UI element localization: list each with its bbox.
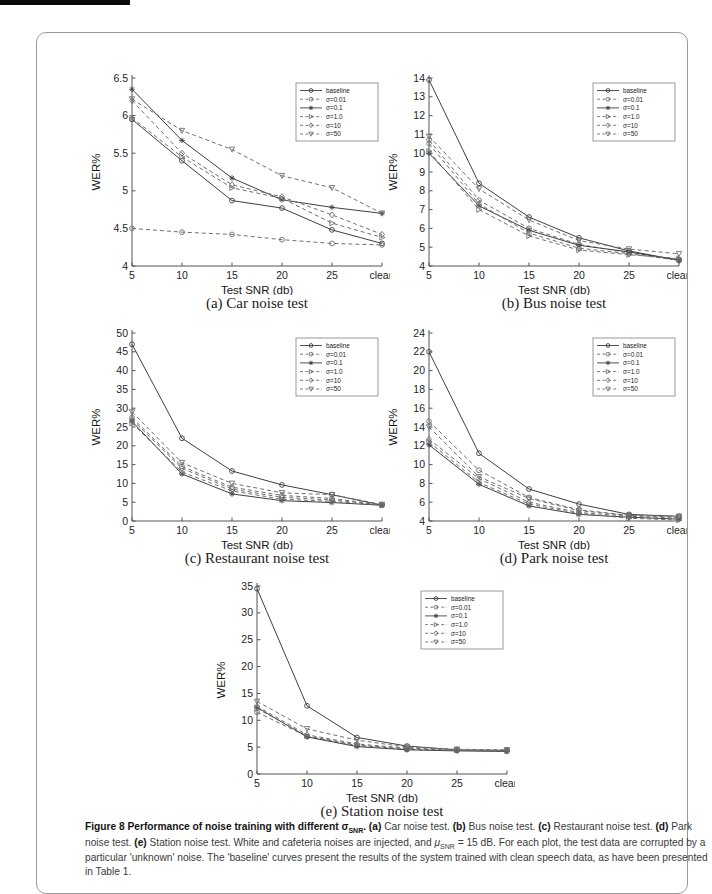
- svg-text:25: 25: [623, 524, 635, 536]
- svg-text:5: 5: [122, 184, 128, 196]
- svg-text:35: 35: [241, 580, 253, 592]
- svg-text:10: 10: [473, 524, 485, 536]
- svg-text:5: 5: [129, 524, 135, 536]
- series-σ=0.1: [254, 705, 510, 755]
- svg-text:4: 4: [419, 515, 425, 527]
- svg-text:20: 20: [116, 439, 128, 451]
- svg-text:σ=0.01: σ=0.01: [326, 351, 347, 358]
- svg-text:14: 14: [413, 72, 425, 84]
- svg-text:baseline: baseline: [623, 342, 647, 349]
- svg-text:15: 15: [226, 269, 238, 281]
- svg-text:15: 15: [226, 524, 238, 536]
- series-σ=0.01: [130, 226, 385, 247]
- svg-text:σ=0.01: σ=0.01: [326, 96, 347, 103]
- svg-text:18: 18: [413, 383, 425, 395]
- svg-text:baseline: baseline: [451, 595, 475, 602]
- svg-text:σ=10: σ=10: [623, 377, 638, 384]
- svg-text:5.5: 5.5: [113, 147, 128, 159]
- svg-text:40: 40: [116, 364, 128, 376]
- svg-text:22: 22: [413, 345, 425, 357]
- x-axis-label: Test SNR (db): [518, 284, 590, 295]
- chart-station-noise: 05101520253035510152025cleanTest SNR (db…: [215, 579, 515, 825]
- svg-text:15: 15: [351, 777, 363, 789]
- figure-caption: Figure 8 Performance of noise training w…: [85, 820, 712, 880]
- car-noise-plot: 44.555.566.5510152025cleanTest SNR (db)W…: [90, 71, 390, 295]
- svg-text:16: 16: [413, 402, 425, 414]
- park-noise-plot: 4681012141618202224510152025cleanTest SN…: [387, 326, 687, 550]
- svg-text:10: 10: [241, 714, 253, 726]
- svg-text:15: 15: [116, 458, 128, 470]
- svg-text:12: 12: [413, 439, 425, 451]
- svg-text:σ=10: σ=10: [623, 122, 638, 129]
- svg-text:clean: clean: [666, 269, 687, 281]
- svg-text:σ=1.0: σ=1.0: [326, 113, 343, 120]
- svg-text:baseline: baseline: [623, 87, 647, 94]
- svg-text:σ=10: σ=10: [326, 122, 341, 129]
- svg-text:9: 9: [419, 166, 425, 178]
- svg-text:5: 5: [254, 777, 260, 789]
- svg-text:11: 11: [414, 128, 425, 140]
- svg-text:25: 25: [241, 633, 253, 645]
- chart-caption-c: (c) Restaurant noise test: [132, 550, 382, 567]
- svg-text:σ=0.1: σ=0.1: [451, 612, 468, 619]
- svg-text:13: 13: [413, 90, 425, 102]
- x-axis-label: Test SNR (db): [346, 792, 418, 803]
- chart-caption-a: (a) Car noise test: [132, 295, 382, 312]
- svg-text:25: 25: [116, 421, 128, 433]
- svg-text:20: 20: [413, 364, 425, 376]
- svg-text:σ=10: σ=10: [326, 377, 341, 384]
- svg-text:20: 20: [241, 660, 253, 672]
- svg-text:20: 20: [573, 269, 585, 281]
- svg-text:25: 25: [326, 524, 338, 536]
- svg-text:15: 15: [523, 269, 535, 281]
- series-σ=10: [427, 436, 682, 521]
- y-axis-label: WER%: [215, 661, 227, 698]
- svg-text:6: 6: [419, 222, 425, 234]
- svg-text:50: 50: [116, 327, 128, 339]
- svg-text:0: 0: [122, 515, 128, 527]
- series-σ=10: [427, 141, 682, 264]
- svg-text:7: 7: [419, 203, 425, 215]
- y-axis-label: WER%: [387, 408, 399, 445]
- svg-text:σ=1.0: σ=1.0: [623, 368, 640, 375]
- svg-text:30: 30: [116, 402, 128, 414]
- svg-text:25: 25: [451, 777, 463, 789]
- chart-car-noise: 44.555.566.5510152025cleanTest SNR (db)W…: [90, 71, 390, 317]
- svg-text:σ=50: σ=50: [623, 385, 638, 392]
- svg-text:24: 24: [413, 327, 425, 339]
- svg-text:30: 30: [241, 606, 253, 618]
- svg-text:σ=50: σ=50: [451, 638, 466, 645]
- svg-text:45: 45: [116, 345, 128, 357]
- svg-text:20: 20: [276, 524, 288, 536]
- svg-text:σ=0.01: σ=0.01: [623, 351, 644, 358]
- svg-text:0: 0: [247, 768, 253, 780]
- x-axis-label: Test SNR (db): [221, 539, 293, 550]
- y-axis-label: WER%: [90, 153, 102, 190]
- svg-text:clean: clean: [666, 524, 687, 536]
- series-σ=0.1: [426, 150, 682, 263]
- svg-text:σ=0.01: σ=0.01: [623, 96, 644, 103]
- svg-text:clean: clean: [494, 777, 515, 789]
- legend: baselineσ=0.01σ=0.1σ=1.0σ=10σ=50: [296, 338, 378, 396]
- svg-text:4: 4: [419, 260, 425, 272]
- svg-text:σ=1.0: σ=1.0: [623, 113, 640, 120]
- svg-text:35: 35: [116, 383, 128, 395]
- series-σ=10: [130, 416, 385, 507]
- svg-text:σ=0.1: σ=0.1: [623, 104, 640, 111]
- x-axis-label: Test SNR (db): [221, 284, 293, 295]
- svg-text:σ=50: σ=50: [326, 130, 341, 137]
- svg-text:25: 25: [623, 269, 635, 281]
- chart-bus-noise: 4567891011121314510152025cleanTest SNR (…: [387, 71, 687, 317]
- svg-text:5: 5: [247, 741, 253, 753]
- legend: baselineσ=0.01σ=0.1σ=1.0σ=10σ=50: [421, 591, 503, 649]
- svg-text:10: 10: [413, 147, 425, 159]
- chart-restaurant-noise: 05101520253035404550510152025cleanTest S…: [90, 326, 390, 572]
- svg-text:10: 10: [473, 269, 485, 281]
- svg-text:12: 12: [413, 109, 425, 121]
- series-σ=0.1: [426, 442, 682, 522]
- svg-text:10: 10: [301, 777, 313, 789]
- svg-text:6: 6: [419, 496, 425, 508]
- svg-text:10: 10: [176, 524, 188, 536]
- svg-text:20: 20: [401, 777, 413, 789]
